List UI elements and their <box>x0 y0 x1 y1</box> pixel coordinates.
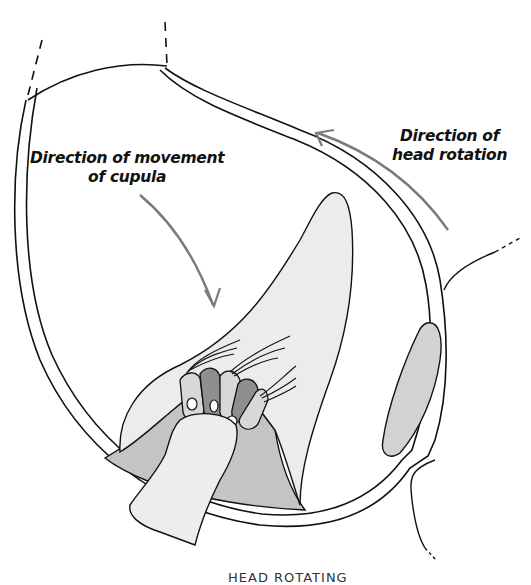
utricle-connection-lower <box>411 460 435 548</box>
canal-top-arc <box>28 64 167 100</box>
head-rotation-label: Direction of head rotation <box>392 127 507 165</box>
canal-dashed-left <box>28 40 42 95</box>
head-rotation-label-line1: Direction of <box>392 127 507 146</box>
cupula-movement-arrow <box>140 195 220 306</box>
hair-cell-nucleus <box>210 400 218 412</box>
utricle-connection-dotted-lower <box>425 548 436 560</box>
cupula-movement-label-line2: of cupula <box>30 168 224 187</box>
head-rotation-label-line2: head rotation <box>392 146 507 165</box>
side-organ <box>382 323 441 456</box>
canal-dashed-right <box>165 22 167 65</box>
diagram-caption: HEAD ROTATING <box>228 570 348 585</box>
cupula-movement-label: Direction of movement of cupula <box>30 149 224 187</box>
utricle-connection-dotted-upper <box>495 238 520 252</box>
cupula-movement-label-line1: Direction of movement <box>30 149 224 168</box>
hair-cell-nucleus <box>187 398 197 410</box>
utricle-connection-upper <box>444 252 495 290</box>
